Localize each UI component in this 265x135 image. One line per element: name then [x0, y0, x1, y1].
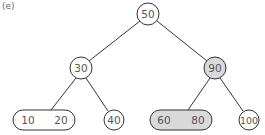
node-right-left-value-1: 60	[157, 114, 170, 126]
node-right-right: 100	[239, 110, 259, 130]
tree-diagram: 50 30 90 10 20 40 60 80 100	[0, 0, 265, 135]
edge-30-40	[86, 78, 108, 111]
node-right: 90	[204, 57, 226, 79]
node-left-left: 10 20	[13, 110, 75, 130]
edge-30-10-20	[51, 78, 76, 110]
node-right-value: 90	[208, 62, 221, 74]
node-left-value: 30	[74, 62, 87, 74]
node-right-left-value-2: 80	[191, 114, 204, 126]
node-left-left-value-1: 10	[21, 114, 34, 126]
edge-50-30	[89, 21, 140, 61]
node-root-value: 50	[141, 8, 154, 20]
node-right-left: 60 80	[150, 110, 212, 130]
node-root: 50	[137, 3, 159, 25]
node-left-right-value: 40	[107, 114, 120, 126]
node-right-right-value: 100	[240, 115, 258, 126]
edge-90-100	[220, 78, 243, 111]
edge-50-90	[157, 21, 207, 61]
edge-90-60-80	[188, 78, 210, 110]
node-left-right: 40	[104, 110, 124, 130]
node-left-left-value-2: 20	[54, 114, 67, 126]
node-left: 30	[70, 57, 92, 79]
